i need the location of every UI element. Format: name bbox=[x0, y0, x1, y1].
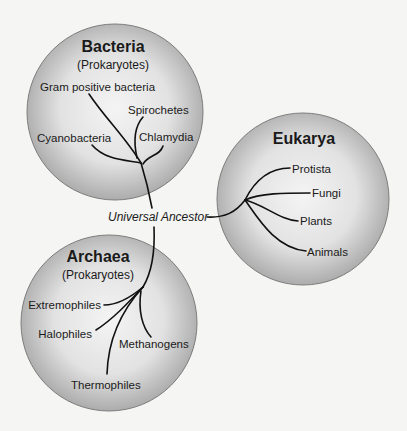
label-chlamydia: Chlamydia bbox=[139, 131, 194, 143]
eukarya-title: Eukarya bbox=[273, 130, 335, 147]
label-animals: Animals bbox=[307, 246, 348, 258]
archaea-subtitle: (Prokaryotes) bbox=[62, 268, 134, 282]
label-methanogens: Methanogens bbox=[119, 338, 189, 350]
universal-ancestor-label: Universal Ancestor bbox=[108, 210, 209, 224]
label-thermophiles: Thermophiles bbox=[71, 379, 141, 391]
tree-of-life-diagram: Bacteria (Prokaryotes) Gram positive bac… bbox=[0, 0, 407, 431]
bacteria-subtitle: (Prokaryotes) bbox=[77, 58, 149, 72]
archaea-title: Archaea bbox=[66, 248, 129, 265]
label-spirochetes: Spirochetes bbox=[128, 104, 189, 116]
eukarya-domain: Eukarya Protista Fungi Plants Animals bbox=[207, 113, 389, 285]
label-gram-positive: Gram positive bacteria bbox=[40, 81, 156, 93]
archaea-domain: Archaea (Prokaryotes) Extremophiles Halo… bbox=[21, 227, 197, 411]
label-cyanobacteria: Cyanobacteria bbox=[37, 132, 112, 144]
label-fungi: Fungi bbox=[312, 187, 341, 199]
label-extremophiles: Extremophiles bbox=[28, 299, 101, 311]
bacteria-title: Bacteria bbox=[81, 38, 144, 55]
label-halophiles: Halophiles bbox=[38, 328, 92, 340]
label-plants: Plants bbox=[300, 215, 332, 227]
bacteria-domain: Bacteria (Prokaryotes) Gram positive bac… bbox=[27, 24, 203, 208]
label-protista: Protista bbox=[292, 163, 332, 175]
